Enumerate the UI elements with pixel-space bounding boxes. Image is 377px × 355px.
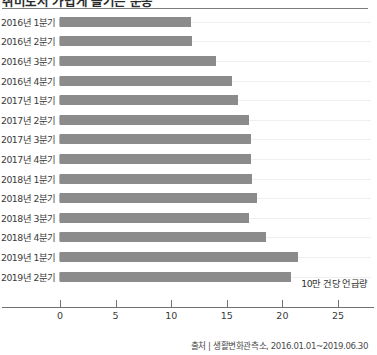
bar (60, 193, 257, 203)
bar-track (60, 154, 377, 164)
category-label: 2016년 3분기 (0, 54, 56, 68)
bar-row: 2018년 2분기 (0, 188, 377, 208)
bar-row: 2016년 1분기 (0, 12, 377, 32)
bar-track (60, 213, 377, 223)
bar (60, 56, 216, 66)
bar-track (60, 134, 377, 144)
category-label: 2017년 4분기 (0, 152, 56, 166)
bar-row: 2018년 3분기 (0, 208, 377, 228)
category-label: 2016년 1분기 (0, 15, 56, 29)
category-label: 2019년 1분기 (0, 250, 56, 264)
category-label: 2016년 2분기 (0, 34, 56, 48)
x-tick-line (60, 300, 61, 308)
x-tick-label: 20 (276, 310, 288, 321)
bar-track (60, 36, 377, 46)
x-tick-label: 5 (113, 310, 119, 321)
bar (60, 213, 249, 223)
bar-track (60, 17, 377, 27)
category-label: 2017년 2분기 (0, 113, 56, 127)
x-tick-line (171, 300, 172, 308)
category-label: 2016년 4분기 (0, 74, 56, 88)
category-label: 2018년 2분기 (0, 191, 56, 205)
title-divider (2, 8, 368, 9)
bar-row: 2016년 4분기 (0, 71, 377, 91)
category-label: 2018년 1분기 (0, 172, 56, 186)
x-axis-ticks: 0510152025 (0, 300, 377, 326)
x-tick-label: 0 (57, 310, 63, 321)
x-tick-label: 25 (332, 310, 344, 321)
category-label: 2017년 3분기 (0, 132, 56, 146)
bar-track (60, 174, 377, 184)
bar (60, 154, 251, 164)
bar-track (60, 56, 377, 66)
bar (60, 252, 298, 262)
plot-area: 2016년 1분기2016년 2분기2016년 3분기2016년 4분기2017… (0, 12, 377, 300)
source-note: 출처 | 생활변화관측소, 2016.01.01~2019.06.30 (191, 339, 368, 351)
bar-row: 2016년 3분기 (0, 51, 377, 71)
bar-track (60, 76, 377, 86)
bar-row: 2017년 2분기 (0, 110, 377, 130)
bar-row: 2017년 4분기 (0, 149, 377, 169)
bar-track (60, 193, 377, 203)
bar-row: 2017년 3분기 (0, 130, 377, 150)
bar (60, 115, 249, 125)
category-label: 2018년 3분기 (0, 211, 56, 225)
bar-track (60, 115, 377, 125)
x-tick-line (227, 300, 228, 308)
bar (60, 76, 232, 86)
category-label: 2019년 2분기 (0, 270, 56, 284)
x-tick-label: 10 (165, 310, 177, 321)
bar-row: 2016년 2분기 (0, 32, 377, 52)
x-tick-label: 15 (221, 310, 233, 321)
bar (60, 95, 238, 105)
category-label: 2018년 4분기 (0, 230, 56, 244)
bar-track (60, 95, 377, 105)
bar-rows: 2016년 1분기2016년 2분기2016년 3분기2016년 4분기2017… (0, 12, 377, 286)
bar-row: 2017년 1분기 (0, 90, 377, 110)
bar (60, 134, 251, 144)
bar-row: 2018년 1분기 (0, 169, 377, 189)
category-label: 2017년 1분기 (0, 93, 56, 107)
bar-track (60, 252, 377, 262)
x-tick-line (282, 300, 283, 308)
bar (60, 174, 252, 184)
bar (60, 232, 266, 242)
bar-row: 2019년 1분기 (0, 247, 377, 267)
x-axis-unit-label: 10만 건당 언급량 (301, 276, 368, 290)
bar (60, 272, 291, 282)
x-tick-line (116, 300, 117, 308)
bar-track (60, 232, 377, 242)
x-tick-line (338, 300, 339, 308)
bar-row: 2018년 4분기 (0, 228, 377, 248)
bar (60, 17, 191, 27)
bar (60, 36, 192, 46)
